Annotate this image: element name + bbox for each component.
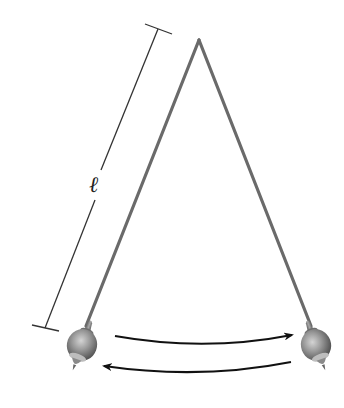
motion-arrows: [104, 335, 292, 372]
bob-left: [59, 315, 105, 375]
pendulum-diagram: [0, 0, 344, 408]
arrow-right-icon: [115, 335, 292, 344]
dimension-line-lower: [45, 200, 95, 328]
dimension-cap-top: [145, 24, 172, 34]
string-left: [86, 40, 199, 326]
length-label: ℓ: [89, 174, 98, 196]
bob-right: [293, 315, 339, 375]
arrow-left-icon: [104, 362, 291, 372]
string-right: [199, 40, 311, 326]
pendulum-strings: [86, 40, 311, 326]
dimension-line-upper: [101, 29, 158, 170]
